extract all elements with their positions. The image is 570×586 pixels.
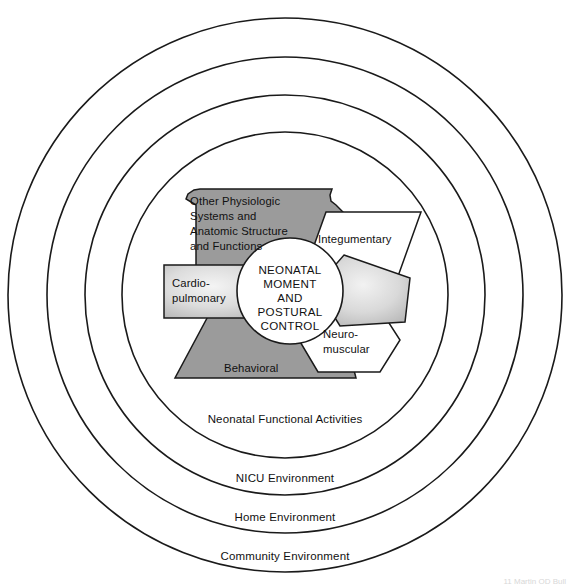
core-label-line-4: POSTURAL [258,305,323,318]
label-other-physiologic-line-1: Other Physiologic [190,195,280,207]
credit-text: 11 Martin OD Bull [503,577,566,586]
label-neuromuscular-line-1: Neuro- [323,328,358,340]
label-cardiopulmonary-line-2: pulmonary [172,292,226,304]
ring-label-nicu-environment: NICU Environment [236,472,335,484]
core-label-line-2: MOMENT [263,277,316,290]
concentric-model-diagram: Other Physiologic Systems and Anatomic S… [0,0,570,586]
label-behavioral: Behavioral [224,362,278,374]
label-other-physiologic-line-2: Systems and [190,210,256,222]
diagram-canvas: Other Physiologic Systems and Anatomic S… [0,0,570,586]
label-other-physiologic-line-3: Anatomic Structure [190,225,288,237]
label-cardiopulmonary-line-1: Cardio- [172,277,210,289]
ring-label-community-environment: Community Environment [220,550,350,562]
ring-label-neonatal-functional-activities: Neonatal Functional Activities [208,413,363,425]
core-label-line-5: CONTROL [261,319,320,332]
label-other-physiologic-line-4: and Functions [190,240,263,252]
label-integumentary: Integumentary [318,233,392,245]
core-label-line-3: AND [277,291,302,304]
ring-label-home-environment: Home Environment [235,511,336,523]
label-neuromuscular-line-2: muscular [323,343,370,355]
core-label-line-1: NEONATAL [258,263,321,276]
